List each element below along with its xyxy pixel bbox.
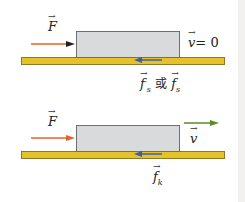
friction-label: fk [153,170,163,187]
velocity-label: v= 0 [188,36,219,49]
panel-kinetic-friction: F v fk [0,101,238,202]
force-arrowhead-icon [66,135,75,141]
friction-label: f′s 或 fs [140,77,180,94]
force-label: F [48,115,57,128]
or-connector: 或 [155,77,167,91]
velocity-label: v [190,132,197,145]
velocity-arrowhead-icon [210,120,219,126]
arrows [0,101,238,202]
panel-static-friction: F v= 0 f′s 或 fs [0,0,238,101]
friction-arrowhead-icon [134,57,142,63]
friction-arrowhead-icon [134,151,142,157]
force-label: F [48,20,57,33]
force-arrowhead-icon [66,41,75,47]
page-edge [238,0,245,202]
arrows [0,0,238,101]
